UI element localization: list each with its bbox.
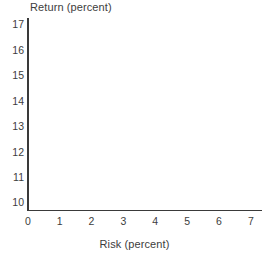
x-axis-title: Risk (percent) [0,238,269,250]
x-tick-label: 0 [19,216,37,227]
x-tick-label: 3 [114,216,132,227]
y-axis-title: Return (percent) [30,1,112,13]
x-tick-label: 4 [146,216,164,227]
y-tick-label: 11 [2,171,24,182]
x-tick-label: 5 [178,216,196,227]
x-axis-line [27,210,262,212]
plot-area [29,18,262,209]
x-tick-label: 7 [242,216,260,227]
x-tick-label: 6 [210,216,228,227]
x-tick-label: 1 [51,216,69,227]
y-tick-label: 12 [2,146,24,157]
x-tick-label: 2 [83,216,101,227]
y-tick-label: 17 [2,19,24,30]
y-tick-label: 16 [2,44,24,55]
y-tick-label: 15 [2,70,24,81]
chart-container: Return (percent) 1011121314151617 012345… [0,0,269,254]
y-tick-label: 13 [2,121,24,132]
y-tick-label: 14 [2,95,24,106]
y-tick-label: 10 [2,197,24,208]
